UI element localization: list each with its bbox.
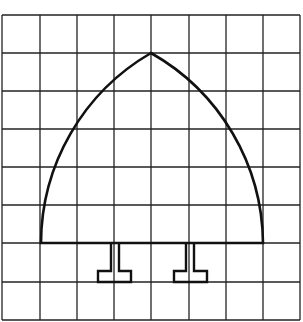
diagram-svg [0, 0, 303, 322]
grid-diagram [0, 0, 303, 322]
pointed-arch-outline [41, 53, 263, 243]
right-foot [174, 243, 207, 282]
grid-lines [2, 15, 300, 320]
